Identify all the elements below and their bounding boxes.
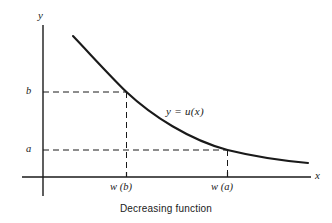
figure-container: y x b a w (b) w (a) y = u(x) Decreasing … (0, 0, 332, 223)
x-axis-label: x (315, 170, 320, 181)
x-tick-label-wb: w (b) (110, 182, 132, 193)
figure-caption: Decreasing function (0, 203, 332, 214)
curve-equation-label: y = u(x) (166, 106, 204, 117)
y-tick-label-b: b (26, 86, 31, 97)
x-tick-label-wa: w (a) (211, 182, 233, 193)
curve-u-of-x (73, 36, 308, 163)
y-tick-label-a: a (26, 144, 31, 155)
y-axis-label: y (38, 10, 43, 21)
